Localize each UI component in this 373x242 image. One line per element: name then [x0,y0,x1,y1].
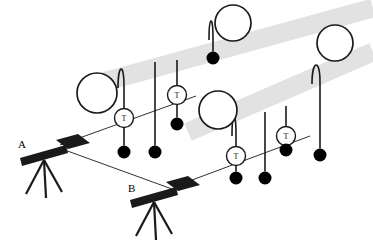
drop-1-marker-label: T [122,114,127,123]
theodolite-A-label: A [18,138,26,150]
drop-3-marker-label: T [175,91,180,100]
drop-7-marker-label: T [284,132,289,141]
theodolite-A-leg-1 [26,160,44,194]
diagram-svg: TTTTAB [0,0,373,242]
drop-5-ball [230,172,243,185]
theodolite-B-label: B [128,182,135,194]
drop-2-ball [149,146,162,159]
theodolite-B-leg-1 [136,202,154,236]
balloon-4 [317,25,353,61]
balloon-3 [199,91,237,129]
balloon-1 [77,73,117,113]
theodolite-A[interactable] [20,134,90,198]
theodolite-B-leg-2 [154,202,156,240]
theodolite-B[interactable] [130,176,200,240]
drop-5-marker-label: T [234,152,239,161]
theodolite-B-leg-3 [154,202,172,234]
drop-8-ball [314,149,327,162]
theodolite-A-leg-3 [44,160,62,192]
drop-3-ball [171,118,184,131]
drop-1-ball [118,146,131,159]
drop-7-ball [280,144,293,157]
drop-4-ball [207,52,220,65]
drop-6-ball [259,172,272,185]
theodolite-A-leg-2 [44,160,46,198]
diagram-canvas: TTTTAB [0,0,373,242]
balloon-2 [215,5,251,41]
